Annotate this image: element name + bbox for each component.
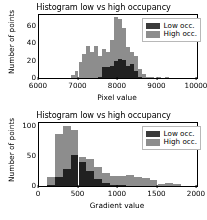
chart-title-top: Histogram low vs high occupancy (0, 2, 207, 12)
y-tick-label: 50 (27, 151, 36, 160)
x-tick-label: 10000 (185, 81, 207, 90)
x-tick-mark (77, 185, 78, 188)
y-tick-label: 40 (27, 38, 36, 47)
chart-panel-gradient-value: Histogram low vs high occupancy Number o… (0, 108, 207, 216)
figure-caption (0, 212, 207, 220)
x-tick-label: 7000 (68, 81, 86, 90)
x-tick-mark (38, 185, 39, 188)
chart-title-bottom: Histogram low vs high occupancy (0, 110, 207, 120)
x-tick-label: 9000 (147, 81, 165, 90)
legend-swatch-low-occ (146, 23, 160, 30)
legend-top: Low occ. High occ. (142, 18, 201, 42)
x-tick-label: 1500 (147, 189, 165, 198)
y-tick-label: 100 (22, 121, 36, 130)
legend-item-high-occ: High occ. (146, 30, 197, 39)
legend-swatch-high-occ (146, 31, 160, 38)
x-axis-ticks-bottom: 0500100015002000 (38, 185, 196, 199)
x-tick-mark (156, 77, 157, 80)
x-tick-label: 500 (71, 189, 85, 198)
legend-label-high-occ: High occ. (164, 138, 197, 147)
x-tick-label: 2000 (187, 189, 205, 198)
histogram-bar (71, 155, 79, 186)
legend-bottom: Low occ. High occ. (142, 126, 201, 150)
x-tick-mark (38, 77, 39, 80)
x-tick-mark (196, 77, 197, 80)
x-tick-label: 8000 (108, 81, 126, 90)
x-axis-label-bottom: Gradient value (38, 201, 196, 210)
x-tick-mark (196, 185, 197, 188)
x-tick-label: 6000 (29, 81, 47, 90)
chart-panel-pixel-value: Histogram low vs high occupancy Number o… (0, 0, 207, 108)
x-axis-ticks-top: 600070008000900010000 (38, 77, 196, 91)
histogram-bar (63, 169, 71, 186)
x-axis-label-top: Pixel value (38, 93, 196, 102)
y-axis-ticks-bottom: 050100 (12, 122, 36, 185)
x-tick-mark (117, 77, 118, 80)
figure-container: Histogram low vs high occupancy Number o… (0, 0, 207, 220)
x-tick-label: 0 (36, 189, 41, 198)
x-tick-mark (77, 77, 78, 80)
x-tick-mark (117, 185, 118, 188)
y-axis-ticks-top: 0204060 (12, 14, 36, 77)
legend-swatch-high-occ (146, 139, 160, 146)
x-tick-mark (156, 185, 157, 188)
y-tick-label: 60 (27, 20, 36, 29)
legend-label-high-occ: High occ. (164, 30, 197, 39)
y-tick-label: 20 (27, 55, 36, 64)
histogram-bar (79, 162, 87, 186)
legend-swatch-low-occ (146, 131, 160, 138)
x-tick-label: 1000 (108, 189, 126, 198)
legend-item-high-occ: High occ. (146, 138, 197, 147)
histogram-bar (86, 171, 94, 186)
